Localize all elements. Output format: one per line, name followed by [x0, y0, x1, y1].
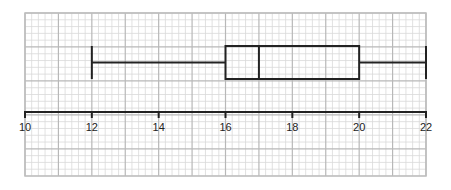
- axis-tick-labels: 10121416182022: [19, 121, 432, 133]
- tick-label-20: 20: [353, 121, 365, 133]
- tick-label-16: 16: [219, 121, 231, 133]
- tick-label-12: 12: [86, 121, 98, 133]
- tick-label-14: 14: [153, 121, 165, 133]
- box-plot-chart: 10121416182022: [0, 0, 451, 190]
- tick-label-10: 10: [19, 121, 31, 133]
- tick-label-18: 18: [286, 121, 298, 133]
- tick-label-22: 22: [420, 121, 432, 133]
